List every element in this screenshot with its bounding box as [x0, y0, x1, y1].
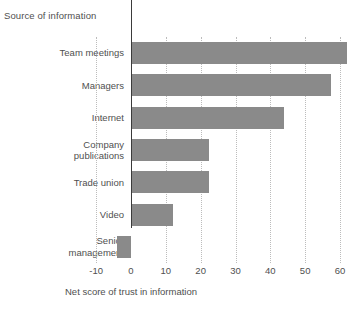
bar: [131, 107, 284, 129]
value-tick-label: 20: [195, 265, 206, 276]
value-tick-label: 30: [230, 265, 241, 276]
category-axis-title: Source of information: [4, 10, 96, 21]
gridline: [305, 37, 306, 263]
value-axis-title: Net score of trust in information: [65, 286, 197, 297]
value-tick-labels: -100102030405060: [0, 265, 363, 281]
value-tick-label: 40: [265, 265, 276, 276]
bar: [131, 74, 331, 96]
bar: [117, 236, 131, 258]
bar: [131, 204, 173, 226]
gridline: [270, 37, 271, 263]
value-tick-label: -10: [89, 265, 103, 276]
value-tick-label: 0: [128, 265, 133, 276]
zero-axis-line: [131, 0, 132, 228]
value-tick-label: 10: [161, 265, 172, 276]
value-tick-label: 60: [335, 265, 346, 276]
gridline: [96, 37, 97, 263]
value-tick-label: 50: [300, 265, 311, 276]
plot-area: [96, 37, 340, 263]
bar: [131, 171, 209, 193]
bar: [131, 42, 347, 64]
bar: [131, 139, 209, 161]
gridline: [236, 37, 237, 263]
gridline: [340, 37, 341, 263]
bar-chart: Source of information Team meetingsManag…: [0, 0, 363, 310]
